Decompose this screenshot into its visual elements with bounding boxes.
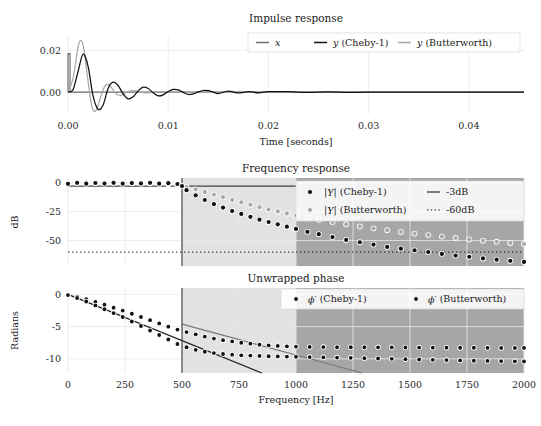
impulse-xtick: 0.01: [158, 120, 179, 131]
legend-marker-dot: [308, 190, 312, 194]
impulse-legend: xy (Cheby-1)y (Butterworth): [248, 33, 520, 52]
phase-yaxis-label: Radians: [9, 311, 20, 350]
phase-ytick: -5: [52, 321, 61, 332]
magnitude-yaxis-label: dB: [9, 215, 20, 228]
legend-label: ϕ′ (Cheby-1): [308, 293, 367, 304]
phase-xtick: 1750: [455, 379, 479, 390]
svg-text:Frequency response: Frequency response: [242, 162, 350, 174]
phase-xaxis-label: Frequency [Hz]: [258, 394, 333, 405]
legend-label: y (Butterworth): [416, 37, 492, 48]
phase-xtick: 500: [173, 379, 191, 390]
magnitude-legend: |Y| (Cheby-1)-3dB|Y| (Butterworth)-60dB: [296, 181, 524, 221]
legend-label: x: [275, 37, 281, 48]
phase-xtick: 1500: [398, 379, 422, 390]
phase-ytick: 0: [55, 289, 61, 300]
phase-xtick: 1000: [284, 379, 308, 390]
filter-analysis-figure: Impulse response0.000.010.020.030.040.00…: [0, 0, 541, 426]
phase-ytick: -10: [46, 353, 61, 364]
impulse-ytick: 0.02: [40, 45, 61, 56]
phase-xtick: 2000: [512, 379, 536, 390]
phase-xtick: 0: [65, 379, 71, 390]
impulse-ytick: 0.00: [40, 87, 61, 98]
svg-text:Unwrapped phase: Unwrapped phase: [248, 272, 345, 284]
impulse-xtick: 0.02: [258, 120, 279, 131]
legend-marker-dot: [308, 208, 312, 212]
legend-label: y (Cheby-1): [332, 37, 389, 48]
legend-label: -3dB: [446, 186, 468, 197]
phase-xtick: 1250: [341, 379, 365, 390]
impulse-xtick: 0.03: [358, 120, 379, 131]
phase-xtick: 250: [116, 379, 134, 390]
magnitude-ytick: -50: [46, 235, 61, 246]
phase-legend: ϕ′ (Cheby-1)ϕ′ (Butterworth): [281, 289, 524, 309]
magnitude-ytick: -25: [46, 206, 61, 217]
legend-label: |Y| (Butterworth): [324, 204, 406, 216]
impulse-xtick: 0.00: [57, 120, 78, 131]
legend-label: |Y| (Cheby-1): [324, 186, 387, 198]
impulse-xtick: 0.04: [458, 120, 479, 131]
impulse-xaxis-label: Time [seconds]: [259, 136, 332, 147]
legend-label: ϕ′ (Butterworth): [428, 293, 506, 304]
legend-marker-dot: [294, 297, 298, 301]
magnitude-ytick: 0: [55, 177, 61, 188]
svg-text:Impulse response: Impulse response: [249, 12, 343, 24]
phase-xtick: 750: [230, 379, 248, 390]
legend-label: -60dB: [446, 204, 474, 215]
legend-marker-dot: [414, 297, 418, 301]
